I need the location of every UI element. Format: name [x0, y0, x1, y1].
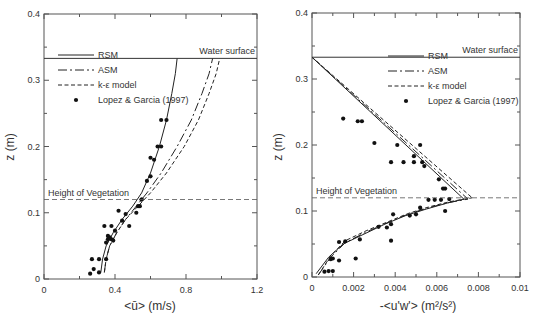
data-point	[389, 239, 393, 243]
data-point	[97, 270, 101, 274]
legend-label: ASM	[98, 65, 118, 75]
legend: RSMASMk-ε modelLopez & Garcia (1997)	[388, 51, 519, 106]
legend-marker	[74, 98, 78, 102]
x-tick-label: 0.01	[511, 283, 529, 293]
figure: 00.40.81.200.10.20.30.4 Water surface He…	[0, 0, 536, 321]
data-point	[106, 234, 110, 238]
data-point	[385, 225, 389, 229]
legend-label: Lopez & Garcia (1997)	[98, 95, 189, 105]
data-point	[358, 237, 362, 241]
data-point	[391, 212, 395, 216]
data-point	[441, 186, 445, 190]
data-point	[376, 225, 380, 229]
data-point	[426, 198, 430, 202]
legend-label: RSM	[428, 51, 448, 61]
data-point	[134, 211, 138, 215]
legend-label: ASM	[428, 66, 448, 76]
y-tick-label: 0.1	[27, 208, 40, 218]
data-point	[439, 198, 443, 202]
data-point	[433, 198, 437, 202]
legend-marker	[404, 99, 408, 103]
x-tick-label: 1.2	[251, 285, 264, 295]
x-tick-label: 0.008	[467, 283, 490, 293]
data-point	[148, 174, 152, 178]
y-tick-label: 0.2	[27, 142, 40, 152]
x-axis-label: -<u'w'> (m²/s²)	[380, 299, 457, 313]
x-tick-label: 0.4	[109, 285, 122, 295]
y-axis-label: z (m)	[271, 133, 285, 160]
data-point	[360, 119, 364, 123]
data-point	[420, 160, 424, 164]
data-point	[152, 158, 156, 162]
data-point	[92, 267, 96, 271]
y-tick-label: 0	[35, 274, 40, 284]
x-tick-label: 0.004	[384, 283, 407, 293]
y-tick-label: 0	[303, 272, 308, 282]
vegetation-label: Height of Vegetation	[316, 186, 397, 196]
data-point	[422, 164, 426, 168]
data-point	[113, 229, 117, 233]
data-point	[389, 160, 393, 164]
data-point	[443, 209, 447, 213]
y-tick-label: 0.2	[295, 140, 308, 150]
data-point	[124, 212, 128, 216]
data-point	[408, 214, 412, 218]
data-point	[120, 219, 124, 223]
reynolds-stress-plot: 00.0020.0040.0060.0080.0100.10.20.30.4 W…	[271, 8, 529, 313]
x-tick-label: 0.006	[426, 283, 449, 293]
data-point	[418, 206, 422, 210]
data-point	[116, 209, 120, 213]
vegetation-label: Height of Vegetation	[48, 188, 129, 198]
data-point	[159, 118, 163, 122]
water-surface-label: Water surface	[199, 46, 255, 56]
y-axis-label: z (m)	[3, 133, 17, 160]
data-point	[164, 118, 168, 122]
velocity-profile-plot: 00.40.81.200.10.20.30.4 Water surface He…	[3, 9, 263, 313]
data-point	[418, 143, 422, 147]
data-point	[88, 272, 92, 276]
data-point	[102, 224, 106, 228]
data-point	[148, 156, 152, 160]
y-tick-label: 0.4	[295, 8, 308, 18]
data-point	[337, 240, 341, 244]
data-point	[331, 269, 335, 273]
data-point	[389, 222, 393, 226]
data-point	[90, 257, 94, 261]
data-point	[331, 256, 335, 260]
data-point	[395, 143, 399, 147]
y-tick-label: 0.1	[295, 206, 308, 216]
data-point	[437, 177, 441, 181]
data-point	[372, 141, 376, 145]
data-point	[327, 269, 331, 273]
water-surface-label: Water surface	[462, 45, 518, 55]
legend-label: Lopez & Garcia (1997)	[428, 96, 519, 106]
data-point	[412, 160, 416, 164]
x-axis-label: <ū> (m/s)	[124, 299, 175, 313]
legend-label: k-ε model	[98, 80, 137, 90]
series-lines	[101, 58, 220, 272]
data-point	[401, 160, 405, 164]
data-point	[145, 179, 149, 183]
data-point	[337, 258, 341, 262]
data-point	[138, 204, 142, 208]
data-point	[356, 119, 360, 123]
x-tick-label: 0.002	[342, 283, 365, 293]
data-point	[111, 238, 115, 242]
data-point	[322, 270, 326, 274]
series-dashdot-line	[104, 58, 212, 272]
series-dashed-line	[104, 58, 219, 272]
data-point	[341, 117, 345, 121]
data-point	[97, 257, 101, 261]
y-tick-label: 0.3	[295, 74, 308, 84]
data-point	[414, 212, 418, 216]
x-tick-label: 0	[41, 285, 46, 295]
data-point	[159, 144, 163, 148]
data-point	[354, 256, 358, 260]
data-point	[412, 154, 416, 158]
data-point	[127, 224, 131, 228]
x-tick-label: 0.8	[180, 285, 193, 295]
data-point	[109, 224, 113, 228]
x-tick-label: 0	[309, 283, 314, 293]
y-tick-label: 0.3	[27, 75, 40, 85]
legend-label: RSM	[98, 50, 118, 60]
